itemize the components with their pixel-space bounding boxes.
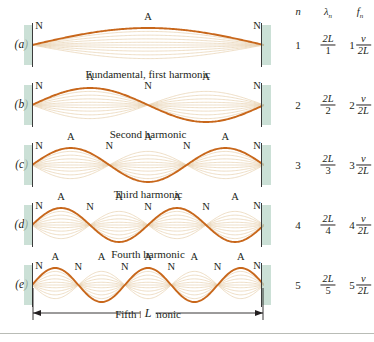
cell-wavelength: 2L5 (320, 273, 335, 296)
wall-edge-right (261, 263, 262, 307)
wave-area-e (32, 262, 264, 308)
panel-a: (a)NANFundamental, first harmonic (0, 8, 280, 66)
antinode-label: A (86, 72, 94, 83)
ghost-wave (32, 45, 264, 59)
wall-edge-right (261, 83, 262, 127)
node-label: N (86, 202, 94, 213)
cell-harmonic-number: 3 (295, 159, 301, 171)
table-header-lambda: λn (324, 6, 332, 20)
table-header-f: fn (357, 6, 363, 20)
node-label: N (106, 141, 114, 152)
panel-e: (e)NANANANANANFifth harmonic (0, 248, 280, 306)
wall-support-right (262, 145, 271, 185)
cell-wavelength: 2L4 (320, 213, 335, 236)
antinode-label: A (98, 252, 106, 263)
antinode-label: A (67, 132, 75, 143)
node-label: N (253, 21, 261, 32)
antinode-label: A (231, 192, 239, 203)
cell-harmonic-number: 5 (295, 279, 301, 291)
wall-edge-right (261, 23, 262, 67)
bottom-divider (0, 333, 374, 334)
antinode-label: A (115, 192, 123, 203)
node-label: N (253, 141, 261, 152)
cell-wavelength: 2L1 (320, 33, 335, 56)
table-header-n: n (295, 6, 300, 17)
cell-frequency: 3v2L (349, 153, 371, 176)
harmonics-table: n λn fn 12L11v2L22L22v2L32L33v2L42L44v2L… (286, 0, 374, 342)
antinode-label: A (51, 252, 59, 263)
wall-support-right (262, 85, 271, 125)
node-label: N (183, 141, 191, 152)
wall-support-right (262, 25, 271, 65)
wall-edge-left (32, 263, 33, 307)
node-label: N (75, 262, 83, 273)
wall-edge-left (32, 23, 33, 67)
cell-harmonic-number: 1 (295, 39, 301, 51)
wall-edge-right (261, 143, 262, 187)
node-label: N (253, 81, 261, 92)
cell-frequency: 4v2L (349, 213, 371, 236)
wall-edge-left (32, 143, 33, 187)
cell-harmonic-number: 4 (295, 219, 301, 231)
node-label: N (202, 202, 210, 213)
wave-area-a (32, 22, 264, 68)
cell-harmonic-number: 2 (295, 99, 301, 111)
length-label: L (141, 306, 156, 321)
node-label: N (35, 21, 43, 32)
wave-area-c (32, 142, 264, 188)
antinode-label: A (57, 192, 65, 203)
panel-c: (c)NANANANThird harmonic (0, 128, 280, 186)
wall-support-right (262, 205, 271, 245)
node-label: N (35, 141, 43, 152)
cell-frequency: 1v2L (349, 33, 371, 56)
cell-wavelength: 2L2 (320, 93, 335, 116)
cell-wavelength: 2L3 (320, 153, 335, 176)
node-label: N (121, 262, 129, 273)
node-label: N (214, 262, 222, 273)
node-label: N (144, 202, 152, 213)
node-label: N (35, 261, 43, 272)
node-label: N (253, 201, 261, 212)
antinode-label: A (191, 252, 199, 263)
antinode-label: A (173, 192, 181, 203)
node-label: N (35, 201, 43, 212)
wall-support-right (262, 265, 271, 305)
wall-edge-left (32, 203, 33, 247)
antinode-label: A (202, 72, 210, 83)
antinode-label: A (222, 132, 230, 143)
node-label: N (253, 261, 261, 272)
antinode-label: A (144, 12, 152, 23)
antinode-label: A (144, 132, 152, 143)
cell-frequency: 5v2L (349, 273, 371, 296)
antinode-label: A (237, 252, 245, 263)
wall-edge-left (32, 83, 33, 127)
wall-edge-right (261, 203, 262, 247)
cell-frequency: 2v2L (349, 93, 371, 116)
panel-d: (d)NANANANANFourth harmonic (0, 188, 280, 246)
antinode-label: A (144, 252, 152, 263)
node-label: N (144, 81, 152, 92)
node-label: N (167, 262, 175, 273)
panel-b: (b)NANANSecond harmonic (0, 68, 280, 126)
node-label: N (35, 81, 43, 92)
